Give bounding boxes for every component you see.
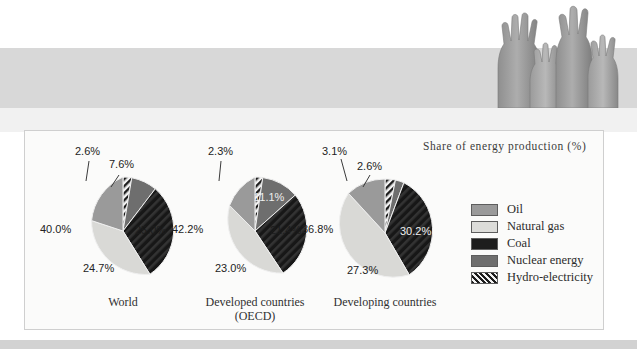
legend-item-hydro-electricity[interactable]: Hydro-electricity: [471, 269, 593, 286]
coal-swatch: [471, 238, 498, 250]
pie-caption-line: Developing countries: [305, 295, 465, 309]
legend-label: Hydro-electricity: [507, 270, 593, 285]
label-developing-coal: 30.2%: [400, 225, 431, 237]
label-world-coal: 25.0%: [135, 224, 166, 236]
legend-item-oil[interactable]: Oil: [471, 201, 593, 218]
oil-swatch: [471, 204, 498, 216]
label-oecd-oil: 42.2%: [172, 223, 203, 235]
label-world-oil: 40.0%: [40, 223, 71, 235]
legend-label: Oil: [507, 202, 523, 217]
callout-leader-lines-oecd: [197, 157, 313, 193]
legend-label: Coal: [507, 236, 531, 251]
label-developing-gas: 27.3%: [347, 264, 378, 276]
pie-caption-developing: Developing countries: [305, 295, 465, 309]
legend-item-natural-gas[interactable]: Natural gas: [471, 218, 593, 235]
label-oecd-coal: 21.4%: [270, 224, 301, 236]
header-band-secondary: [0, 108, 637, 132]
label-oecd-gas: 23.0%: [215, 262, 246, 274]
label-developing-oil: 36.8%: [302, 223, 333, 235]
pie-caption-line: (OECD): [175, 309, 335, 323]
chart-title: Share of energy production (%): [423, 140, 586, 152]
page-root: Share of energy production (%): [0, 0, 637, 349]
callout-leader-lines-world: [65, 157, 181, 197]
label-oecd-nuclear: 11.1%: [254, 191, 284, 203]
raised-hands-icon: [484, 4, 634, 108]
legend-label: Nuclear energy: [507, 253, 583, 268]
callout-developing-hydro: 3.1%: [322, 145, 347, 157]
legend-label: Natural gas: [507, 219, 564, 234]
chart-legend: Oil Natural gas Coal Nuclear energy Hydr…: [471, 201, 593, 286]
callout-oecd-hydro: 2.3%: [208, 145, 233, 157]
callout-world-hydro: 2.6%: [75, 145, 100, 157]
nuclear-energy-swatch: [471, 255, 498, 267]
callout-leader-lines-developing: [321, 157, 441, 197]
hydro-electricity-swatch: [471, 272, 498, 284]
label-world-gas: 24.7%: [83, 262, 114, 274]
footer-band: [0, 340, 637, 349]
legend-item-coal[interactable]: Coal: [471, 235, 593, 252]
chart-panel: Share of energy production (%): [24, 130, 604, 330]
legend-item-nuclear-energy[interactable]: Nuclear energy: [471, 252, 593, 269]
natural-gas-swatch: [471, 221, 498, 233]
